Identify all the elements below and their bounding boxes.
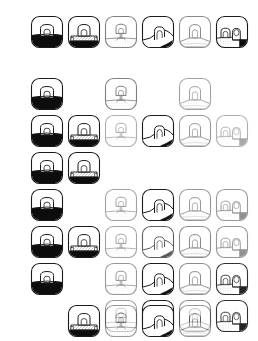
dome-pedestal-icon[interactable] xyxy=(103,224,139,260)
dome-solid-base-icon[interactable] xyxy=(29,261,65,297)
dome-pedestal-icon[interactable] xyxy=(103,113,139,149)
arch-corner-dark-icon[interactable] xyxy=(140,303,176,339)
dome-pair-corner-icon[interactable] xyxy=(214,187,250,223)
dome-mound-icon[interactable] xyxy=(177,303,213,339)
icon-grid xyxy=(0,0,258,341)
dome-pedestal-icon[interactable] xyxy=(103,76,139,112)
arch-corner-dark-icon[interactable] xyxy=(140,187,176,223)
dome-pair-corner-icon[interactable] xyxy=(214,261,250,297)
dome-solid-base-icon[interactable] xyxy=(29,76,65,112)
dome-pair-corner-icon[interactable] xyxy=(214,224,250,260)
arch-corner-dark-icon[interactable] xyxy=(140,113,176,149)
dome-mound-icon[interactable] xyxy=(177,261,213,297)
dome-pedestal-icon[interactable] xyxy=(103,303,139,339)
dome-solid-base-icon[interactable] xyxy=(29,187,65,223)
dome-pair-corner-icon[interactable] xyxy=(214,298,250,334)
dome-pair-corner-icon[interactable] xyxy=(214,14,250,50)
dome-solid-base-icon[interactable] xyxy=(29,113,65,149)
dome-mound-icon[interactable] xyxy=(177,14,213,50)
dome-solid-base-icon[interactable] xyxy=(29,14,65,50)
dome-platform-icon[interactable] xyxy=(66,14,102,50)
dome-mound-icon[interactable] xyxy=(177,187,213,223)
dome-pair-corner-icon[interactable] xyxy=(214,113,250,149)
dome-mound-icon[interactable] xyxy=(177,224,213,260)
dome-platform-icon[interactable] xyxy=(66,303,102,339)
dome-pedestal-icon[interactable] xyxy=(103,261,139,297)
dome-pedestal-icon[interactable] xyxy=(103,14,139,50)
dome-platform-icon[interactable] xyxy=(66,150,102,186)
arch-corner-dark-icon[interactable] xyxy=(140,261,176,297)
dome-mound-icon[interactable] xyxy=(177,76,213,112)
dome-solid-base-icon[interactable] xyxy=(29,224,65,260)
arch-corner-dark-icon[interactable] xyxy=(140,14,176,50)
dome-mound-icon[interactable] xyxy=(177,113,213,149)
dome-solid-base-icon[interactable] xyxy=(29,150,65,186)
dome-platform-icon[interactable] xyxy=(66,224,102,260)
dome-platform-icon[interactable] xyxy=(66,113,102,149)
arch-corner-dark-icon[interactable] xyxy=(140,224,176,260)
dome-pedestal-icon[interactable] xyxy=(103,187,139,223)
